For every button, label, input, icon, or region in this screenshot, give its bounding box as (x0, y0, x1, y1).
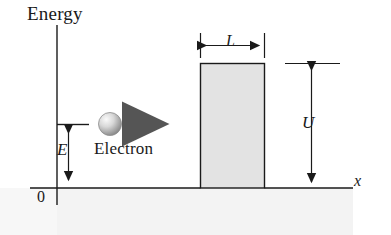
electron-label: Electron (94, 140, 153, 157)
left-ground-shading (0, 188, 57, 235)
ground-region-shading (57, 188, 353, 235)
potential-barrier-diagram: Energy Electron 0 x E L U (0, 0, 391, 235)
barrier-height-label: U (302, 114, 314, 131)
electron-sphere-icon (99, 113, 122, 136)
energy-axis-label: Energy (27, 4, 83, 23)
electron-energy-label: E (57, 141, 67, 158)
x-axis-label: x (354, 173, 361, 189)
barrier-width-label: L (226, 33, 235, 49)
origin-label: 0 (37, 189, 45, 205)
potential-barrier-block (201, 64, 265, 189)
diagram-canvas (0, 0, 391, 235)
